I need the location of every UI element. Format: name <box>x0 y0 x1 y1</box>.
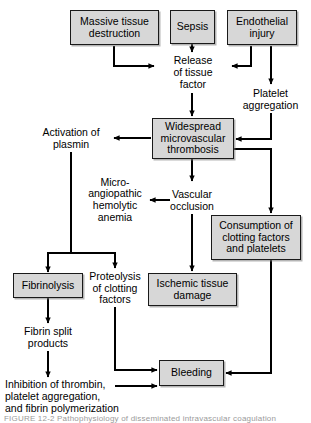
edge-platelet-aggregation-to-thrombosis <box>236 113 271 139</box>
edge-activation-of-plasmin-to-proteolysis <box>71 253 115 268</box>
node-proteolysis-of-clotting-factors[interactable]: Proteolysis of clotting factors <box>83 269 147 308</box>
edge-massive-tissue-destruction-to-release <box>114 46 154 66</box>
node-activation-of-plasmin[interactable]: Activation of plasmin <box>27 126 115 152</box>
node-microangiopathic-hemolytic-anemia[interactable]: Micro- angiopathic hemolytic anemia <box>79 174 151 226</box>
node-fibrinolysis[interactable]: Fibrinolysis <box>13 273 83 298</box>
node-sepsis[interactable]: Sepsis <box>170 10 215 44</box>
node-fibrin-split-products[interactable]: Fibrin split products <box>8 324 88 351</box>
node-massive-tissue-destruction[interactable]: Massive tissue destruction <box>70 10 159 45</box>
node-bleeding[interactable]: Bleeding <box>159 360 224 386</box>
node-ischemic-tissue-damage[interactable]: Ischemic tissue damage <box>148 273 237 306</box>
node-vascular-occlusion[interactable]: Vascular occlusion <box>163 187 221 214</box>
node-endothelial-injury[interactable]: Endothelial injury <box>227 10 297 45</box>
edge-proteolysis-to-bleeding <box>115 307 157 370</box>
node-widespread-microvascular-thrombosis[interactable]: Widespread microvascular thrombosis <box>152 118 234 159</box>
node-consumption-of-clotting-factors[interactable]: Consumption of clotting factors and plat… <box>211 215 301 260</box>
edge-activation-of-plasmin-to-fibrinolysis <box>48 152 71 272</box>
node-release-of-tissue-factor[interactable]: Release of tissue factor <box>155 53 231 93</box>
diagram-canvas: Massive tissue destruction Sepsis Endoth… <box>0 0 311 423</box>
edge-endothelial-injury-to-release <box>232 46 251 66</box>
figure-caption: FIGURE 12-2 Pathophysiology of dissemina… <box>4 414 307 423</box>
edge-thrombosis-to-consumption <box>234 149 271 213</box>
node-platelet-aggregation[interactable]: Platelet aggregation <box>228 86 311 113</box>
node-inhibition-of-thrombin[interactable]: Inhibition of thrombin, platelet aggrega… <box>5 377 138 417</box>
